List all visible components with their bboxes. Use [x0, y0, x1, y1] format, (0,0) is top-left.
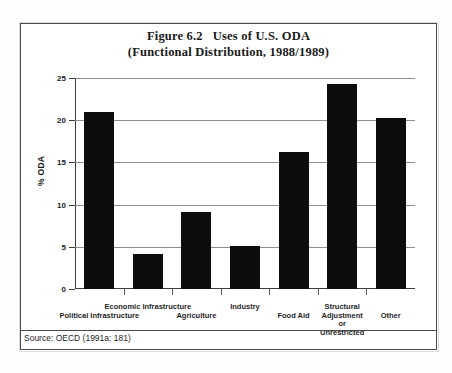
y-tick-label-15: 15 [57, 158, 66, 167]
y-tick-0 [69, 289, 75, 290]
bar [84, 112, 114, 289]
bar-slot [221, 78, 270, 289]
y-axis-title: % ODA [36, 156, 46, 186]
y-tick-label-20: 20 [57, 116, 66, 125]
figure-subtitle: (Functional Distribution, 1988/1989) [20, 44, 437, 60]
y-tick-label-0: 0 [62, 285, 66, 294]
figure-title: Figure 6.2Uses of U.S. ODA (Functional D… [20, 28, 437, 60]
bar-slot [269, 78, 318, 289]
x-tick [221, 289, 222, 295]
bar [181, 212, 211, 289]
x-tick [172, 289, 173, 295]
y-tick-label-25: 25 [57, 74, 66, 83]
x-tick [318, 289, 319, 295]
bar [327, 84, 357, 289]
y-tick-label-5: 5 [62, 242, 66, 251]
bar-slot [172, 78, 221, 289]
bar-series [75, 78, 415, 289]
figure-page: Figure 6.2Uses of U.S. ODA (Functional D… [0, 0, 452, 373]
bar-slot [318, 78, 367, 289]
bar-slot [75, 78, 124, 289]
bar-slot [124, 78, 173, 289]
bar-slot [366, 78, 415, 289]
bar [376, 118, 406, 289]
bar [279, 152, 309, 289]
source-divider [20, 330, 437, 331]
x-tick [269, 289, 270, 295]
y-tick-label-10: 10 [57, 200, 66, 209]
figure-title-text: Uses of U.S. ODA [213, 29, 310, 43]
plot-area: 0510152025 [75, 78, 415, 289]
figure-number: Figure 6.2 [147, 29, 203, 43]
bar [230, 246, 260, 289]
x-tick [366, 289, 367, 295]
source-note: Source: OECD (1991a: 181) [24, 333, 131, 343]
bar [133, 254, 163, 289]
x-tick [124, 289, 125, 295]
